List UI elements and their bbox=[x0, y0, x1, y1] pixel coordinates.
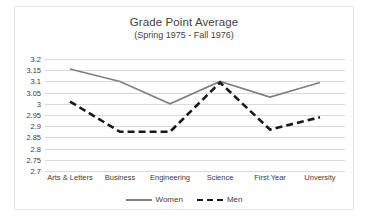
page-title: Grade Point Average bbox=[15, 15, 353, 29]
chart-legend: WomenMen bbox=[15, 195, 353, 204]
x-axis-labels: Arts & LettersBusinessEngineeringScience… bbox=[45, 173, 345, 187]
y-axis-tick-label: 2.7 bbox=[31, 167, 41, 176]
gridline: 2.7 bbox=[45, 171, 345, 172]
y-axis-tick-label: 3.05 bbox=[26, 88, 41, 97]
y-axis-tick-label: 2.85 bbox=[26, 133, 41, 142]
x-axis-tick-label: Business bbox=[95, 173, 145, 187]
x-axis-tick-label: Unversity bbox=[295, 173, 345, 187]
y-axis-tick-label: 2.8 bbox=[31, 144, 41, 153]
chart-title-block: Grade Point Average (Spring 1975 - Fall … bbox=[15, 15, 353, 41]
y-axis-tick-label: 3.1 bbox=[31, 77, 41, 86]
series-layer bbox=[45, 59, 345, 171]
legend-label: Women bbox=[156, 195, 183, 204]
x-axis-tick-label: First Year bbox=[245, 173, 295, 187]
plot-area: 3.23.153.13.0532.952.92.852.82.752.7 bbox=[45, 59, 345, 171]
series-line-men bbox=[70, 83, 320, 132]
legend-item-women[interactable]: Women bbox=[126, 195, 183, 204]
chart-container: Grade Point Average (Spring 1975 - Fall … bbox=[14, 6, 354, 210]
solid-line-swatch bbox=[126, 199, 152, 201]
y-axis-tick-label: 3 bbox=[37, 99, 41, 108]
y-axis-tick-label: 2.75 bbox=[26, 155, 41, 164]
y-axis-tick-label: 3.2 bbox=[31, 55, 41, 64]
legend-item-men[interactable]: Men bbox=[197, 195, 243, 204]
x-axis-tick-label: Science bbox=[195, 173, 245, 187]
legend-label: Men bbox=[227, 195, 243, 204]
series-line-women bbox=[70, 69, 320, 104]
y-axis-tick-label: 3.15 bbox=[26, 66, 41, 75]
x-axis-tick-label: Engineering bbox=[145, 173, 195, 187]
x-axis-tick-label: Arts & Letters bbox=[45, 173, 95, 187]
y-axis-tick-label: 2.9 bbox=[31, 122, 41, 131]
dashed-line-swatch bbox=[197, 199, 223, 201]
chart-subtitle: (Spring 1975 - Fall 1976) bbox=[15, 29, 353, 41]
y-axis-tick-label: 2.95 bbox=[26, 111, 41, 120]
